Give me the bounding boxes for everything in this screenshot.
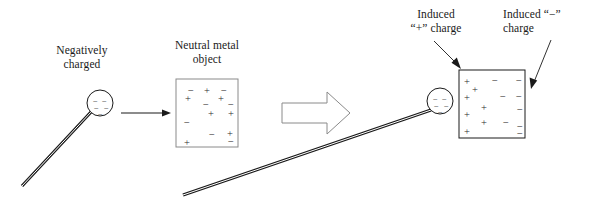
induced-box-negative-charge: −: [516, 92, 522, 102]
induced-box-negative-charge: −: [516, 76, 522, 86]
induced-box-positive-charge: +: [481, 103, 487, 113]
label-negatively-charged: Negatively charged: [36, 44, 128, 71]
induced-box-negative-charge: −: [492, 76, 498, 86]
neutral-box-positive-charge: +: [204, 86, 210, 96]
induced-box-positive-charge: +: [464, 77, 470, 87]
neutral-box-negative-charge: −: [184, 118, 190, 128]
neutral-box-positive-charge: +: [228, 109, 234, 119]
neutral-box-negative-charge: −: [209, 130, 215, 140]
neutral-box-negative-charge: −: [228, 137, 234, 147]
rod-sphere-negative-charge: −: [438, 108, 443, 117]
induced-box-negative-charge: −: [500, 92, 506, 102]
label-neutral-metal-object: Neutral metal object: [160, 39, 254, 66]
neutral-box-positive-charge: +: [184, 138, 190, 148]
induced-box-positive-charge: +: [464, 93, 470, 103]
rod-sphere-negative-charge: −: [104, 104, 109, 113]
induced-box-negative-charge: −: [503, 118, 509, 128]
annotation-arrow-icon-minus: [530, 40, 551, 89]
neutral-box-positive-charge: +: [208, 109, 214, 119]
induced-box-negative-charge: −: [517, 129, 523, 139]
block-right-arrow-icon: [282, 92, 350, 134]
induced-box-positive-charge: +: [464, 127, 470, 137]
neutral-box-positive-charge: +: [185, 94, 191, 104]
neutral-box-positive-charge: +: [218, 94, 224, 104]
rod-sphere-negative-charge: −: [444, 102, 449, 111]
charged-rod-icon-left: [22, 112, 91, 186]
rod-sphere-negative-charge: −: [98, 110, 103, 119]
annotation-arrow-icon-plus: [434, 41, 461, 69]
induced-box-positive-charge: +: [481, 118, 487, 128]
induced-box-positive-charge: +: [472, 85, 478, 95]
label-induced-plus-charge: Induced “+” charge: [396, 8, 476, 35]
label-induced-minus-charge: Induced “−” charge: [503, 8, 587, 35]
figure-canvas: Negatively charged Neutral metal object …: [0, 0, 597, 207]
induced-box-positive-charge: +: [464, 110, 470, 120]
induced-box-negative-charge: −: [517, 105, 523, 115]
right-arrow-icon: [121, 110, 171, 117]
